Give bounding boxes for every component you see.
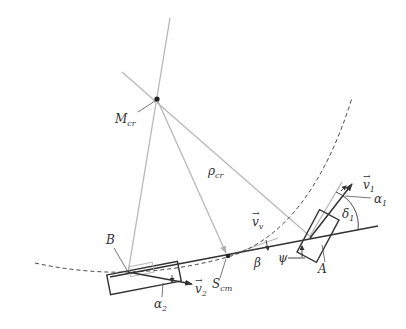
instant-center-point: [154, 96, 159, 101]
label-steer-angle: δ1: [342, 207, 354, 223]
vehicle-longitudinal-axis: [110, 226, 378, 277]
label-rear-axle: B: [105, 233, 115, 247]
bicycle-model-diagram: Mcr ρcr vv → v1 → v2 → α1 δ1 β ψ Scm A B…: [0, 0, 406, 329]
rear-velocity-arrow: [128, 272, 192, 284]
front-normal-line: [122, 72, 312, 238]
rear-normal-line: [128, 18, 170, 273]
vector-arrow-v1: →: [363, 171, 371, 181]
label-sideslip: β: [253, 256, 261, 270]
label-radius: ρcr: [207, 164, 225, 180]
trajectory-dashed-path: [35, 98, 352, 272]
label-center-of-mass: Scm: [212, 277, 233, 293]
construction-lines: [122, 18, 342, 273]
label-instant-center: Mcr: [114, 112, 137, 128]
label-rear-slip: α2: [154, 297, 167, 313]
front-wheel-heading-line: [310, 182, 342, 236]
label-front-slip: α1: [374, 192, 387, 208]
label-front-axle: A: [317, 262, 327, 276]
vector-arrow-v2: →: [195, 275, 203, 285]
front-wheel: [297, 210, 339, 263]
alpha1-arc: [341, 186, 346, 191]
center-of-mass-point: [226, 254, 230, 258]
label-yaw: ψ: [278, 251, 288, 265]
vector-arrow-vv: →: [252, 208, 260, 218]
